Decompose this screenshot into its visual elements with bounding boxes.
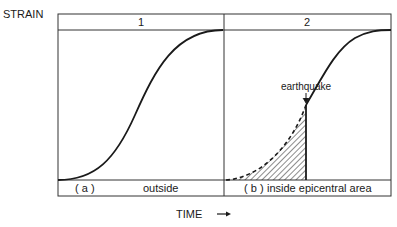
panel-1-caption-letter: ( a ) bbox=[75, 182, 95, 194]
accumulated-strain-hatch bbox=[226, 100, 308, 182]
panel-2-caption-text: inside epicentral area bbox=[267, 182, 372, 194]
panel-1-number: 1 bbox=[138, 16, 144, 28]
panel-2-caption-letter: ( b ) bbox=[244, 182, 264, 194]
y-axis-label: STRAIN bbox=[3, 8, 43, 20]
time-arrowhead-icon bbox=[226, 212, 231, 217]
strain-time-diagram: STRAIN 1 2 earthquake ( a ) outside ( b … bbox=[0, 0, 397, 227]
panel-2-strain-curve bbox=[306, 30, 391, 105]
panel-1-caption-text: outside bbox=[143, 182, 178, 194]
x-axis-label: TIME bbox=[176, 208, 202, 220]
panel-2-number: 2 bbox=[304, 16, 310, 28]
panel-1-strain-curve bbox=[58, 30, 223, 180]
earthquake-label: earthquake bbox=[281, 81, 331, 92]
